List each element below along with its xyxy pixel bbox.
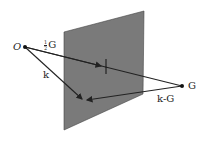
fraction-one-half: 1 2 [44, 40, 47, 51]
fraction-denominator: 2 [44, 46, 47, 51]
label-origin: O [13, 42, 21, 52]
label-k: k [43, 70, 49, 80]
point-origin [23, 45, 27, 49]
point-G [180, 84, 184, 88]
bragg-plane [64, 11, 144, 130]
bragg-plane-diagram [0, 0, 204, 142]
label-G: G [188, 81, 196, 91]
label-k-minus-G: k-G [157, 94, 174, 104]
half-G-symbol: G [48, 39, 56, 50]
label-half-G: 1 2 G [44, 40, 56, 51]
